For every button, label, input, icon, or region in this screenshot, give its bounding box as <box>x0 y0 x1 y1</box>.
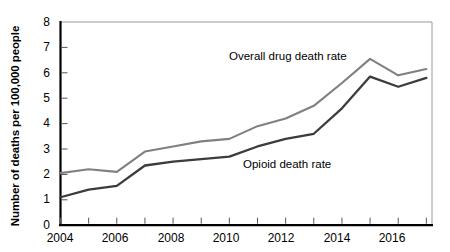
series-annotation-opioid-death-rate: Opioid death rate <box>243 158 331 170</box>
chart-container: Number of deaths per 100,000 people 8 7 … <box>0 0 450 252</box>
series-line-opioid-death-rate <box>61 77 427 198</box>
plot-area <box>0 0 450 252</box>
series-annotation-overall-drug-death-rate: Overall drug death rate <box>229 50 347 62</box>
x-axis-ticks <box>61 218 427 224</box>
y-axis-ticks <box>62 47 68 199</box>
